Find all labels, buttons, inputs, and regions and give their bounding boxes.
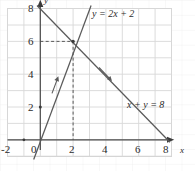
x-tick-label-neg2: -2 xyxy=(1,144,10,155)
x-axis-label: x xyxy=(180,146,184,155)
y-axis-label: y xyxy=(44,0,48,5)
graph-screenshot: 8 6 4 2 -2 0 2 4 6 8 x y y = 2x + 2 x + … xyxy=(0,0,195,171)
x-tick-label-8: 8 xyxy=(163,144,169,155)
equation-label-line2: x + y = 8 xyxy=(127,100,164,110)
y-tick-label-4: 4 xyxy=(28,69,34,80)
y-tick-label-8: 8 xyxy=(28,3,34,14)
equation-label-line1: y = 2x + 2 xyxy=(92,9,134,19)
y-tick-label-2: 2 xyxy=(28,102,34,113)
point-0-2 xyxy=(39,106,42,109)
y-tick-label-6: 6 xyxy=(28,36,34,47)
x-tick-label-0: 0 xyxy=(31,144,37,155)
x-tick-label-6: 6 xyxy=(135,144,141,155)
point-neg1-0 xyxy=(23,138,26,141)
x-tick-label-4: 4 xyxy=(102,144,108,155)
point-intersection-2-6 xyxy=(71,40,74,43)
x-tick-label-2: 2 xyxy=(69,144,75,155)
